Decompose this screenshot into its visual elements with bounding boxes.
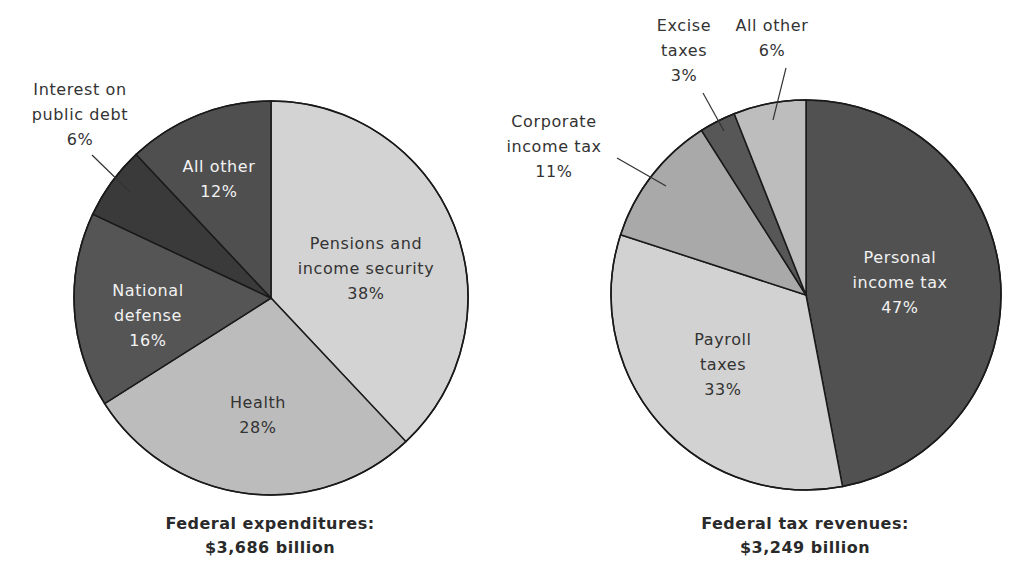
expenditures-pie: Pensions andincome security38%Health28%N… [32,80,468,495]
revenues-caption: Federal tax revenues: $3,249 billion [635,512,975,560]
expenditures-caption-title: Federal expenditures: [100,512,440,536]
label-excise-taxes: Excisetaxes3% [657,16,711,85]
revenues-caption-amount: $3,249 billion [635,536,975,560]
chart-canvas: Pensions andincome security38%Health28%N… [0,0,1021,569]
revenues-caption-title: Federal tax revenues: [635,512,975,536]
label-all-other: All other6% [736,16,809,60]
slice-personal-income-tax [806,100,1001,487]
expenditures-caption: Federal expenditures: $3,686 billion [100,512,440,560]
label-interest-on-public-debt: Interest onpublic debt6% [32,80,128,149]
label-corporate-income-tax: Corporateincome tax11% [506,112,601,181]
revenues-pie: Personalincome tax47%Payrolltaxes33%Corp… [506,16,1001,490]
expenditures-caption-amount: $3,686 billion [100,536,440,560]
